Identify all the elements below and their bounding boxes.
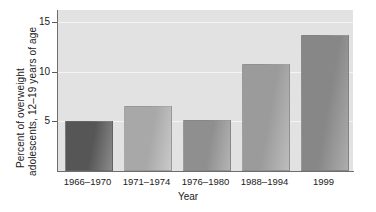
y-axis-title-line-2: adolescents, 12–19 years of age bbox=[27, 27, 38, 176]
y-axis-tick-label: 10 bbox=[28, 67, 50, 77]
bar bbox=[242, 64, 290, 171]
y-axis-title: Percent of overweight adolescents, 12–19… bbox=[0, 0, 40, 180]
y-axis-tick bbox=[52, 72, 57, 73]
y-axis-tick bbox=[52, 22, 57, 23]
bars-container bbox=[58, 10, 353, 171]
bar-chart: Percent of overweight adolescents, 12–19… bbox=[0, 0, 376, 212]
bar bbox=[65, 121, 113, 171]
bar bbox=[183, 120, 231, 171]
y-axis-title-line-1: Percent of overweight bbox=[15, 68, 26, 168]
x-axis-tick-label: 1988–1994 bbox=[235, 176, 294, 187]
x-axis-line bbox=[57, 171, 354, 172]
y-axis-tick-label: 5 bbox=[28, 116, 50, 126]
x-axis-tick-label: 1976–1980 bbox=[176, 176, 235, 187]
y-axis-tick bbox=[52, 121, 57, 122]
x-axis-tick-label: 1999 bbox=[294, 176, 353, 187]
y-axis-tick-label: 15 bbox=[28, 17, 50, 27]
x-axis-tick-label: 1971–1974 bbox=[117, 176, 176, 187]
x-axis-title: Year bbox=[0, 191, 376, 202]
x-axis-tick-label: 1966–1970 bbox=[58, 176, 117, 187]
bar bbox=[124, 106, 172, 171]
bar bbox=[301, 35, 349, 171]
